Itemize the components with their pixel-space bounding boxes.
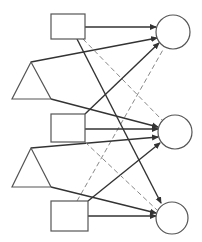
triangle-node-tri2	[12, 148, 51, 187]
arrow-edge-sq2-to-c1	[85, 43, 159, 114]
square-node-sq3	[51, 201, 88, 231]
circle-node-c1	[156, 15, 190, 49]
arrow-edge-tri1-to-c1	[31, 38, 157, 62]
nodes-layer	[12, 14, 192, 234]
circle-node-c3	[156, 202, 188, 234]
arrow-edge-tri2-to-c2	[31, 137, 158, 148]
square-node-sq2	[51, 114, 85, 142]
arrow-edge-sq3-to-c2	[88, 143, 160, 201]
dashed-edge-sq2-to-c3	[85, 142, 157, 210]
square-node-sq1	[51, 14, 85, 39]
network-diagram	[0, 0, 202, 242]
circle-node-c2	[158, 115, 192, 149]
triangle-node-tri1	[12, 62, 51, 99]
